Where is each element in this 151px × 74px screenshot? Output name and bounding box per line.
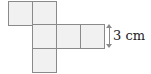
net-square-bottom: [32, 48, 57, 73]
net-square-top-left: [8, 1, 33, 26]
arrow-down-icon: [106, 44, 112, 48]
net-square-top-middle: [32, 1, 57, 26]
net-square-middle-1: [32, 24, 57, 49]
net-square-middle-3: [80, 24, 105, 49]
dimension-label: 3 cm: [113, 29, 145, 43]
net-square-middle-2: [56, 24, 81, 49]
